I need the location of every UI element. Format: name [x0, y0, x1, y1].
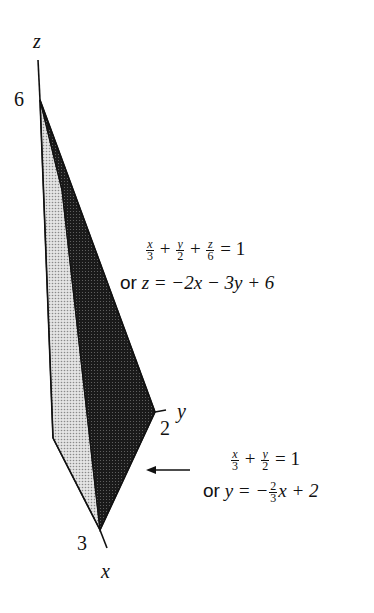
arrow-head-icon: [146, 466, 156, 474]
fraction-z-over-6: z6: [206, 239, 214, 262]
y-intercept-label: 2: [160, 417, 170, 440]
plane-equation-fraction-form: x3 + y2 + z6 = 1: [145, 238, 245, 262]
fraction-y-over-2: y2: [261, 449, 269, 472]
y-axis-label: y: [177, 400, 186, 423]
fraction-y-over-2: y2: [176, 239, 184, 262]
x-intercept-label: 3: [77, 532, 87, 555]
z-axis-label: z: [33, 30, 41, 53]
trace-equation-fraction-form: x3 + y2 = 1: [230, 448, 300, 472]
tetrahedron-diagram: [0, 0, 374, 613]
x-axis-label: x: [101, 560, 110, 583]
x-axis-stub: [100, 530, 107, 548]
z-axis-line: [38, 60, 40, 100]
fraction-2-over-3: 23: [269, 481, 277, 504]
y-axis-stub: [155, 410, 166, 412]
fraction-x-over-3: x3: [146, 239, 154, 262]
trace-equation-explicit-form: or y = −23x + 2: [203, 480, 319, 504]
plane-equation-explicit-form: or z = −2x − 3y + 6: [120, 272, 274, 294]
z-intercept-label: 6: [14, 88, 24, 111]
fraction-x-over-3: x3: [231, 449, 239, 472]
